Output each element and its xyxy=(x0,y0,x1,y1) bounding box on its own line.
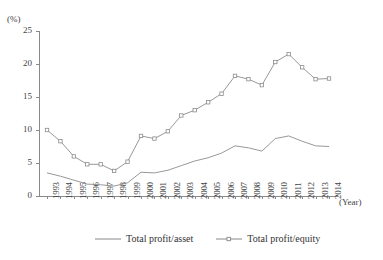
data-point-marker xyxy=(166,130,169,133)
data-point-marker xyxy=(287,52,290,55)
data-point-marker xyxy=(139,134,142,137)
data-point-marker xyxy=(206,101,209,104)
series-2 xyxy=(45,52,330,172)
series-1 xyxy=(47,136,329,186)
legend-label: Total profit/equity xyxy=(247,233,320,244)
data-point-marker xyxy=(126,160,129,163)
data-point-marker xyxy=(72,155,75,158)
series-line xyxy=(47,54,329,171)
legend-line-square-marker-icon xyxy=(216,235,242,243)
data-point-marker xyxy=(112,169,115,172)
data-point-marker xyxy=(153,137,156,140)
legend-item-2[interactable]: Total profit/equity xyxy=(216,233,320,244)
legend-item-1[interactable]: Total profit/asset xyxy=(95,233,193,244)
data-point-marker xyxy=(300,66,303,69)
series-plot-area xyxy=(0,0,383,260)
data-point-marker xyxy=(247,77,250,80)
data-point-marker xyxy=(260,83,263,86)
data-point-marker xyxy=(99,163,102,166)
data-point-marker xyxy=(59,140,62,143)
legend-line-icon xyxy=(95,235,121,243)
data-point-marker xyxy=(327,77,330,80)
data-point-marker xyxy=(314,77,317,80)
data-point-marker xyxy=(45,128,48,131)
data-point-marker xyxy=(274,60,277,63)
series-line xyxy=(47,136,329,186)
data-point-marker xyxy=(220,92,223,95)
data-point-marker xyxy=(86,163,89,166)
data-point-marker xyxy=(180,114,183,117)
data-point-marker xyxy=(233,74,236,77)
chart-legend: Total profit/assetTotal profit/equity xyxy=(95,233,320,244)
data-point-marker xyxy=(193,109,196,112)
chart-container: (%) (Year) 0510152025 199319941995199619… xyxy=(0,0,383,260)
legend-label: Total profit/asset xyxy=(126,233,193,244)
